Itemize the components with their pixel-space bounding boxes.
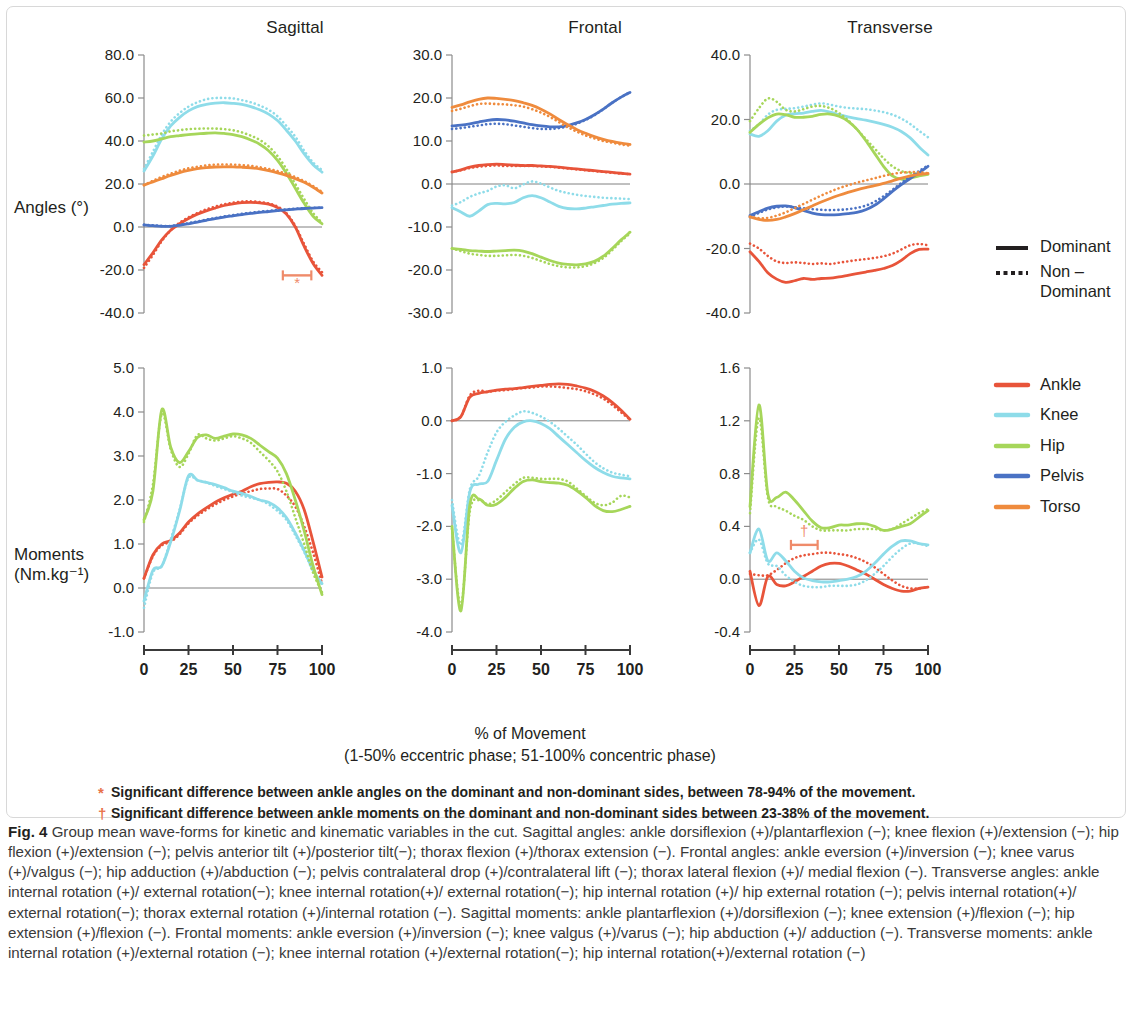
y-tick-label: 0.4 — [719, 517, 740, 534]
footnote-asterisk-text: Significant difference between ankle ang… — [111, 782, 915, 802]
y-tick-label: 20.0 — [413, 89, 442, 106]
x-tick-label: 25 — [180, 661, 198, 678]
x-axis-title-line1: % of Movement — [230, 723, 830, 745]
y-tick-label: 1.0 — [421, 359, 442, 376]
y-tick-label: -20.0 — [100, 261, 134, 278]
y-tick-label: 3.0 — [113, 447, 134, 464]
legend-line-style: DominantNon – Dominant — [995, 237, 1130, 307]
x-tick-label: 0 — [140, 661, 149, 678]
chart-moments-transverse: -0.40.00.40.81.21.6†0255075100 — [688, 358, 936, 688]
x-axis-title: % of Movement (1-50% eccentric phase; 51… — [230, 723, 830, 767]
legend-series-label: Ankle — [1040, 375, 1081, 394]
y-tick-label: 40.0 — [711, 46, 740, 63]
legend-series-item-hip: Hip — [995, 436, 1130, 455]
y-tick-label: -1.0 — [108, 623, 134, 640]
chart-moments-frontal: -4.0-3.0-2.0-1.00.01.00255075100 — [390, 358, 638, 688]
y-tick-label: 4.0 — [113, 403, 134, 420]
y-tick-label: -40.0 — [706, 304, 740, 321]
x-tick-label: 100 — [309, 661, 336, 678]
color-swatch-knee-icon — [995, 411, 1029, 419]
figure-page: Sagittal Frontal Transverse Angles (°) M… — [0, 0, 1134, 1029]
series-line-hip-solid — [144, 409, 322, 595]
legend-style-label: Non – Dominant — [1040, 262, 1111, 301]
series-line-ankle-solid — [750, 563, 928, 606]
series-line-ankle-solid — [750, 249, 928, 282]
panel-title-frontal: Frontal — [470, 18, 720, 38]
series-line-hip-solid — [750, 114, 928, 179]
plot-moments-transverse: -0.40.00.40.81.21.6†0255075100 — [688, 358, 936, 688]
series-line-ankle-dotted — [144, 201, 322, 272]
footnote-dagger-mark: † — [98, 803, 111, 824]
y-tick-label: -30.0 — [408, 304, 442, 321]
chart-moments-sagittal: -1.00.01.02.03.04.05.00255075100 — [82, 358, 330, 688]
y-tick-label: -10.0 — [408, 218, 442, 235]
y-tick-label: 60.0 — [105, 89, 134, 106]
y-tick-label: 80.0 — [105, 46, 134, 63]
y-tick-label: -20.0 — [706, 240, 740, 257]
x-tick-label: 25 — [488, 661, 506, 678]
y-tick-label: 0.0 — [113, 579, 134, 596]
dotted-line-icon — [995, 270, 1029, 276]
footnote-dagger: † Significant difference between ankle m… — [98, 803, 1058, 824]
legend-series-label: Torso — [1040, 497, 1080, 516]
x-axis-title-line2: (1-50% eccentric phase; 51-100% concentr… — [230, 745, 830, 767]
y-tick-label: -20.0 — [408, 261, 442, 278]
legend-series-item-ankle: Ankle — [995, 375, 1130, 394]
x-tick-label: 50 — [532, 661, 550, 678]
y-tick-label: 0.0 — [421, 175, 442, 192]
series-line-knee-solid — [750, 529, 928, 582]
x-tick-label: 25 — [786, 661, 804, 678]
y-tick-label: 10.0 — [413, 132, 442, 149]
y-tick-label: 1.0 — [113, 535, 134, 552]
color-swatch-torso-icon — [995, 503, 1029, 511]
plot-angles-sagittal: -40.0-20.00.020.040.060.080.0* — [82, 45, 330, 335]
y-tick-label: -1.0 — [416, 465, 442, 482]
y-tick-label: 0.0 — [719, 570, 740, 587]
y-tick-label: -0.4 — [714, 623, 740, 640]
series-line-knee-solid — [452, 421, 630, 553]
chart-angles-frontal: -30.0-20.0-10.00.010.020.030.0 — [390, 45, 638, 335]
significance-marker: * — [283, 270, 311, 291]
x-tick-label: 75 — [875, 661, 893, 678]
y-tick-label: -3.0 — [416, 570, 442, 587]
color-swatch-hip-icon — [995, 442, 1029, 450]
series-line-hip-dotted — [452, 477, 630, 605]
footnotes: * Significant difference between ankle a… — [98, 782, 1058, 824]
figure-caption: Fig. 4 Group mean wave-forms for kinetic… — [8, 822, 1126, 963]
x-tick-label: 0 — [746, 661, 755, 678]
color-swatch-ankle-icon — [995, 381, 1029, 389]
y-tick-label: 5.0 — [113, 359, 134, 376]
x-tick-label: 100 — [915, 661, 942, 678]
plot-angles-transverse: -40.0-20.00.020.040.0 — [688, 45, 936, 335]
figure-label: Fig. 4 — [8, 823, 47, 840]
y-tick-label: 30.0 — [413, 46, 442, 63]
footnote-asterisk-mark: * — [98, 782, 111, 803]
legend-series-label: Pelvis — [1040, 466, 1084, 485]
y-tick-label: -2.0 — [416, 517, 442, 534]
x-tick-label: 50 — [830, 661, 848, 678]
chart-angles-sagittal: -40.0-20.00.020.040.060.080.0* — [82, 45, 330, 335]
y-tick-label: 0.0 — [113, 218, 134, 235]
y-tick-label: -4.0 — [416, 623, 442, 640]
legend-series-item-pelvis: Pelvis — [995, 466, 1130, 485]
y-tick-label: 40.0 — [105, 132, 134, 149]
panel-title-sagittal: Sagittal — [170, 18, 420, 38]
solid-line-icon — [995, 245, 1029, 251]
legend-style-item-dotted: Non – Dominant — [995, 262, 1130, 301]
panel-title-transverse: Transverse — [765, 18, 1015, 38]
series-line-ankle-solid — [144, 202, 322, 275]
y-tick-label: 1.2 — [719, 412, 740, 429]
legend-series-item-torso: Torso — [995, 497, 1130, 516]
y-tick-label: 0.0 — [421, 412, 442, 429]
color-swatch-pelvis-icon — [995, 472, 1029, 480]
x-tick-label: 100 — [617, 661, 644, 678]
figure-caption-text: Group mean wave-forms for kinetic and ki… — [8, 823, 1119, 961]
y-tick-label: 0.8 — [719, 465, 740, 482]
y-tick-label: 20.0 — [105, 175, 134, 192]
legend-series-item-knee: Knee — [995, 405, 1130, 424]
plot-moments-frontal: -4.0-3.0-2.0-1.00.01.00255075100 — [390, 358, 638, 688]
legend-series-label: Knee — [1040, 405, 1079, 424]
footnote-asterisk: * Significant difference between ankle a… — [98, 782, 1058, 803]
series-line-hip-dotted — [750, 418, 928, 531]
series-line-knee-dotted — [452, 181, 630, 205]
